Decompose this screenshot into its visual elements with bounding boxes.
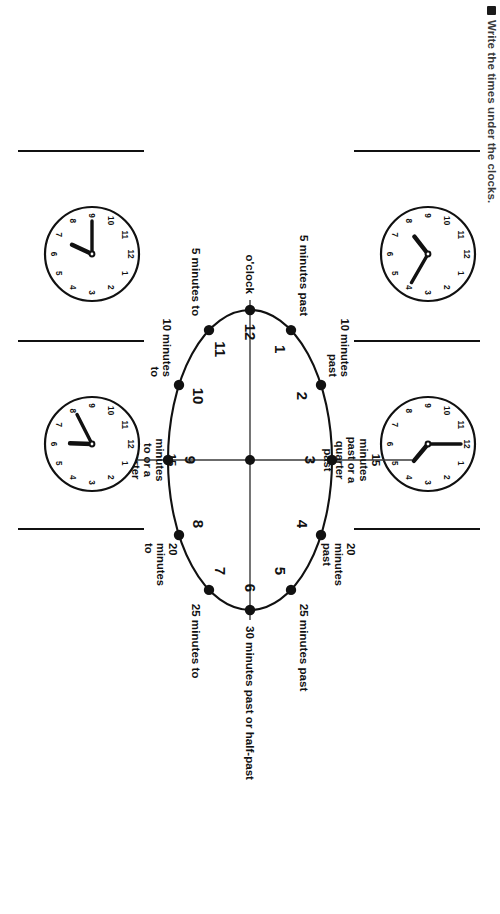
minute-label-6: 30 minutes past or half-past xyxy=(244,626,257,780)
minute-label-7: 25 minutes to xyxy=(190,604,203,679)
clock-numeral: 12 xyxy=(126,249,135,259)
clock-numeral: 4 xyxy=(404,475,413,480)
square-bullet-icon xyxy=(487,6,496,15)
clock-numeral: 12 xyxy=(462,439,471,449)
clock-numeral: 3 xyxy=(87,480,96,485)
clock-cell: 123456789101112 xyxy=(342,150,494,340)
cell-divider-right xyxy=(18,528,144,530)
minute-label-2: 10 minutespast xyxy=(327,319,351,378)
clock-cell: 123456789101112 xyxy=(6,340,158,530)
clock-numeral: 6 xyxy=(49,442,58,447)
clock-numeral: 3 xyxy=(87,290,96,295)
minute-label-4: 20minutespast xyxy=(321,543,357,586)
clock-a-face: 123456789101112 xyxy=(376,202,480,306)
hour-numeral: 12 xyxy=(242,324,259,341)
clock-b: 123456789101112 xyxy=(376,392,480,496)
clock-numeral: 2 xyxy=(106,285,115,290)
hour-numeral: 8 xyxy=(190,520,207,528)
hour-marker-5: 5 xyxy=(272,567,296,595)
worksheet-sheet: Write the times under the clocks. 123456… xyxy=(0,0,500,914)
clock-numeral: 5 xyxy=(390,461,399,466)
clock-numeral: 11 xyxy=(456,420,465,429)
clock-numeral: 7 xyxy=(54,422,63,427)
clock-numeral: 5 xyxy=(54,271,63,276)
hour-numeral: 1 xyxy=(272,345,289,353)
clock-numeral: 8 xyxy=(68,408,77,413)
clock-numeral: 6 xyxy=(385,442,394,447)
clock-numeral: 5 xyxy=(54,461,63,466)
clock-numeral: 9 xyxy=(423,403,432,408)
clock-numeral: 2 xyxy=(106,475,115,480)
clock-numeral: 2 xyxy=(442,475,451,480)
clock-numeral: 6 xyxy=(49,252,58,257)
hour-numeral: 10 xyxy=(190,388,207,405)
hour-numeral: 6 xyxy=(242,584,259,592)
clock-b-face: 123456789101112 xyxy=(376,392,480,496)
clock-d: 123456789101112 xyxy=(40,392,144,496)
minute-label-5: 25 minutes past xyxy=(298,604,311,692)
clock-numeral: 6 xyxy=(385,252,394,257)
hour-numeral: 9 xyxy=(182,456,199,464)
clock-numeral: 3 xyxy=(423,480,432,485)
clock-cell: 123456789101112 xyxy=(6,150,158,340)
clock-numeral: 11 xyxy=(120,420,129,429)
clock-numeral: 9 xyxy=(87,213,96,218)
cell-divider xyxy=(354,150,480,152)
clock-numeral: 8 xyxy=(68,218,77,223)
hour-numeral: 4 xyxy=(294,520,311,529)
hour-marker-4: 4 xyxy=(294,520,326,540)
clock-numeral: 10 xyxy=(442,216,451,226)
clock-numeral: 3 xyxy=(423,290,432,295)
clock-numeral: 7 xyxy=(390,232,399,237)
clock-numeral: 12 xyxy=(462,249,471,259)
minute-label-8: 20minutesto xyxy=(143,543,179,586)
clock-c-face: 123456789101112 xyxy=(40,202,144,306)
hour-numeral: 2 xyxy=(294,392,311,400)
clock-numeral: 8 xyxy=(404,218,413,223)
clock-numeral: 1 xyxy=(120,271,129,276)
cell-divider xyxy=(18,150,144,152)
clock-numeral: 9 xyxy=(87,403,96,408)
clock-a: 123456789101112 xyxy=(376,202,480,306)
circle-diagram-svg: 12o'clock15 minutes past210 minutespast3… xyxy=(160,150,340,770)
clock-numeral: 10 xyxy=(106,216,115,226)
minute-label-12: o'clock xyxy=(244,255,257,295)
clock-numeral: 4 xyxy=(68,285,77,290)
clock-row-bottom: 123456789101112 123456789101112 xyxy=(6,150,158,530)
hour-numeral: 5 xyxy=(272,567,289,575)
clock-d-face: 123456789101112 xyxy=(40,392,144,496)
clock-c: 123456789101112 xyxy=(40,202,144,306)
clock-numeral: 10 xyxy=(106,406,115,416)
clock-numeral: 9 xyxy=(423,213,432,218)
cell-divider xyxy=(354,340,480,342)
hour-marker-7: 7 xyxy=(204,567,229,595)
hour-marker-2: 2 xyxy=(294,380,326,400)
clock-numeral: 10 xyxy=(442,406,451,416)
clock-numeral: 1 xyxy=(120,461,129,466)
hour-marker-10: 10 xyxy=(174,380,207,405)
clock-minutes-circle: 12o'clock15 minutes past210 minutespast3… xyxy=(160,150,340,770)
clock-numeral: 11 xyxy=(456,230,465,239)
minute-label-11: 5 minutes to xyxy=(190,248,203,316)
cell-divider xyxy=(18,340,144,342)
clock-numeral: 12 xyxy=(126,439,135,449)
hour-marker-11: 11 xyxy=(204,325,229,357)
hour-numeral: 11 xyxy=(212,341,229,357)
worksheet-page: Write the times under the clocks. 123456… xyxy=(0,0,500,914)
clock-numeral: 1 xyxy=(456,461,465,466)
clock-numeral: 11 xyxy=(120,230,129,239)
clock-numeral: 4 xyxy=(68,475,77,480)
clock-numeral: 1 xyxy=(456,271,465,276)
hour-numeral: 7 xyxy=(212,567,229,575)
clock-numeral: 7 xyxy=(390,422,399,427)
minute-label-1: 5 minutes past xyxy=(298,235,311,316)
hour-marker-8: 8 xyxy=(174,520,207,540)
cell-divider-right xyxy=(354,528,480,530)
clock-numeral: 2 xyxy=(442,285,451,290)
hour-numeral: 3 xyxy=(302,456,319,464)
clock-numeral: 7 xyxy=(54,232,63,237)
clock-numeral: 4 xyxy=(404,285,413,290)
clock-numeral: 8 xyxy=(404,408,413,413)
clock-cell: 123456789101112 xyxy=(342,340,494,530)
clock-numeral: 5 xyxy=(390,271,399,276)
